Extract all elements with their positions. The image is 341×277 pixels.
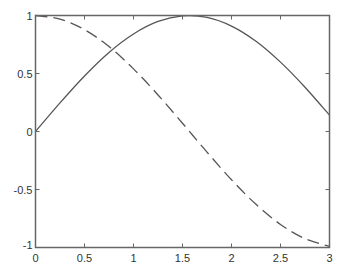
x-tick-label: 1 xyxy=(130,252,136,264)
axes-frame xyxy=(36,16,330,248)
y-tick-label: 1 xyxy=(26,10,32,22)
x-tick-label: 2 xyxy=(228,252,234,264)
y-tick-label: -1 xyxy=(23,239,33,251)
y-tick-label: 0.5 xyxy=(17,68,32,80)
x-tick-label: 0 xyxy=(32,252,38,264)
x-tick-label: 1.5 xyxy=(175,252,190,264)
y-axis-tick-labels: -1-0.500.51 xyxy=(14,10,33,251)
x-tick-label: 2.5 xyxy=(273,252,288,264)
x-axis-tick-labels: 00.511.522.53 xyxy=(32,252,332,264)
tick-marks xyxy=(36,16,330,248)
series-line-cos-dashed xyxy=(36,16,330,247)
line-chart: 00.511.522.53 -1-0.500.51 xyxy=(0,0,341,277)
x-tick-label: 0.5 xyxy=(77,252,92,264)
x-tick-label: 3 xyxy=(326,252,332,264)
plot-lines xyxy=(36,16,330,247)
y-tick-label: 0 xyxy=(26,126,32,138)
y-tick-label: -0.5 xyxy=(14,184,33,196)
series-line-sin-solid xyxy=(36,16,330,132)
